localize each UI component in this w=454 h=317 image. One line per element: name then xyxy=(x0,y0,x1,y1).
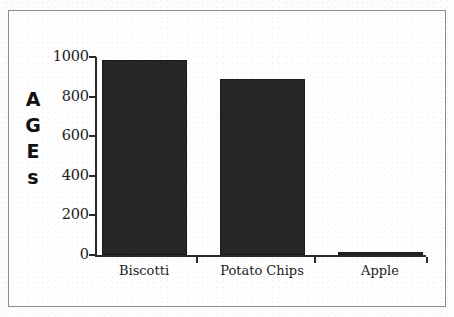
y-axis-tick: 800 xyxy=(89,96,96,98)
y-axis-tick: 600 xyxy=(89,135,96,137)
x-axis-category-label-2: Potato Chips xyxy=(220,263,304,278)
y-axis-title-letter-3: E xyxy=(20,138,46,164)
x-axis-spine xyxy=(95,255,426,257)
y-axis-tick-label: 400 xyxy=(62,167,89,183)
x-axis-tick xyxy=(196,257,198,263)
y-axis-tick-label: 800 xyxy=(62,88,89,104)
x-axis-tick xyxy=(426,257,428,263)
x-axis-tick xyxy=(314,257,316,263)
chart-figure: A G E s 0 200 400 600 800 1000 xyxy=(0,0,454,317)
x-axis-category-label-1: Biscotti xyxy=(119,263,169,278)
bar-apple[interactable] xyxy=(338,252,423,255)
bar-potato-chips[interactable] xyxy=(220,79,305,255)
y-axis-title-letter-1: A xyxy=(20,86,46,112)
y-axis-tick-label: 1000 xyxy=(53,48,89,64)
y-axis-title: A G E s xyxy=(20,86,46,190)
y-axis-tick-label: 0 xyxy=(80,246,89,262)
y-axis-tick-label: 200 xyxy=(62,206,89,222)
x-axis-category-label-3: Apple xyxy=(361,263,399,278)
plot-area: 0 200 400 600 800 1000 Biscotti Potato C… xyxy=(96,57,426,255)
y-axis-tick: 400 xyxy=(89,175,96,177)
y-axis-tick: 1000 xyxy=(89,56,96,58)
y-axis-tick: 0 xyxy=(89,254,96,256)
y-axis-title-letter-2: G xyxy=(20,112,46,138)
y-axis-tick: 200 xyxy=(89,214,96,216)
y-axis-tick-label: 600 xyxy=(62,127,89,143)
bar-biscotti[interactable] xyxy=(102,60,187,255)
y-axis-title-letter-4: s xyxy=(20,164,46,190)
y-axis-spine xyxy=(95,57,97,256)
